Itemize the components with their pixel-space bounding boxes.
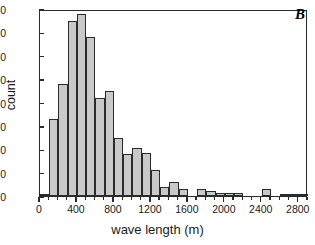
y-tick-label: 70	[0, 28, 6, 38]
y-tick-label: 80	[0, 5, 6, 15]
x-tick-label: 1200	[130, 203, 170, 215]
histogram-bar	[206, 191, 215, 196]
x-tick-label: 400	[56, 203, 96, 215]
x-minor-tick-mark	[57, 197, 58, 200]
x-minor-tick-mark	[158, 197, 159, 200]
x-tick-mark	[75, 197, 76, 202]
y-tick-mark	[39, 79, 44, 80]
x-tick-label: 1600	[167, 203, 207, 215]
histogram-bars	[40, 11, 306, 196]
histogram-bar	[179, 189, 188, 196]
y-tick-mark	[39, 9, 44, 10]
y-tick-label: 20	[0, 145, 6, 155]
x-minor-tick-mark	[214, 197, 215, 200]
x-tick-mark	[223, 197, 224, 202]
x-minor-tick-mark	[269, 197, 270, 200]
x-minor-tick-mark	[94, 197, 95, 200]
figure-panel-b: B 01020304050607080 count 04008001200160…	[0, 0, 315, 245]
x-minor-tick-mark	[205, 197, 206, 200]
x-tick-label: 2800	[278, 203, 315, 215]
x-axis-label: wave length (m)	[0, 222, 315, 237]
x-tick-mark	[260, 197, 261, 202]
histogram-bar	[216, 193, 225, 197]
x-tick-label: 2400	[241, 203, 281, 215]
x-tick-mark	[112, 197, 113, 202]
histogram-bar	[68, 21, 77, 196]
histogram-bar	[151, 170, 160, 196]
histogram-bar	[95, 98, 104, 196]
y-tick-mark	[39, 103, 44, 104]
histogram-bar	[142, 153, 151, 196]
y-tick-label: 10	[0, 169, 6, 179]
histogram-bar	[86, 37, 95, 196]
histogram-bar	[49, 119, 58, 196]
x-minor-tick-mark	[177, 197, 178, 200]
x-tick-label: 2000	[204, 203, 244, 215]
x-tick-mark	[38, 197, 39, 202]
histogram-bar	[225, 193, 234, 197]
histogram-bar	[280, 194, 289, 196]
x-minor-tick-mark	[288, 197, 289, 200]
y-tick-mark	[39, 196, 44, 197]
x-minor-tick-mark	[306, 197, 307, 200]
histogram-bar	[197, 189, 206, 196]
x-minor-tick-mark	[242, 197, 243, 200]
histogram-bar	[262, 189, 271, 196]
y-tick-mark	[39, 33, 44, 34]
y-axis-label: count	[4, 60, 18, 130]
x-minor-tick-mark	[122, 197, 123, 200]
y-tick-mark	[39, 56, 44, 57]
x-tick-mark	[149, 197, 150, 202]
y-tick-mark	[39, 173, 44, 174]
plot-area	[39, 10, 307, 197]
histogram-bar	[299, 194, 308, 196]
x-tick-mark	[297, 197, 298, 202]
x-minor-tick-mark	[168, 197, 169, 200]
histogram-bar	[169, 182, 178, 196]
panel-letter: B	[295, 6, 305, 23]
x-minor-tick-mark	[131, 197, 132, 200]
y-tick-mark	[39, 150, 44, 151]
x-minor-tick-mark	[103, 197, 104, 200]
x-minor-tick-mark	[140, 197, 141, 200]
histogram-bar	[77, 14, 86, 196]
x-tick-label: 0	[19, 203, 59, 215]
histogram-bar	[114, 138, 123, 196]
x-minor-tick-mark	[251, 197, 252, 200]
histogram-bar	[132, 148, 141, 196]
histogram-bar	[58, 84, 67, 196]
x-minor-tick-mark	[195, 197, 196, 200]
x-tick-mark	[186, 197, 187, 202]
x-minor-tick-mark	[48, 197, 49, 200]
histogram-bar	[160, 187, 169, 196]
x-minor-tick-mark	[85, 197, 86, 200]
x-minor-tick-mark	[66, 197, 67, 200]
x-minor-tick-mark	[232, 197, 233, 200]
x-tick-label: 800	[93, 203, 133, 215]
y-tick-mark	[39, 126, 44, 127]
histogram-bar	[123, 154, 132, 196]
histogram-bar	[290, 194, 299, 196]
histogram-bar	[105, 91, 114, 196]
histogram-bar	[234, 193, 243, 197]
x-minor-tick-mark	[279, 197, 280, 200]
y-tick-label: 0	[0, 192, 6, 202]
